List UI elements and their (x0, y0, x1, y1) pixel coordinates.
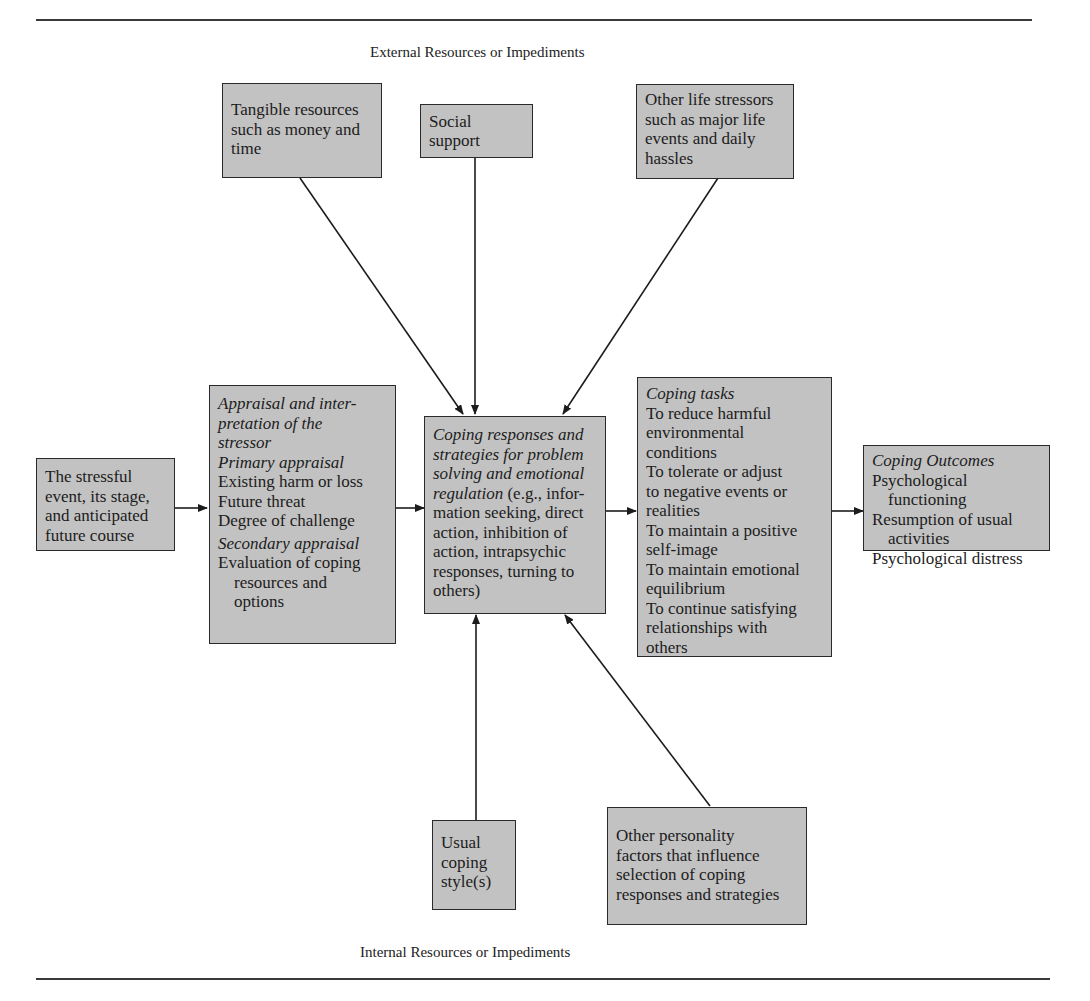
box-text: coping (441, 853, 507, 873)
box-text: such as major life (645, 110, 785, 130)
coping-task-text: others (646, 638, 823, 658)
box-text: Other life stressors (645, 90, 785, 110)
coping-task-text: To maintain emotional (646, 560, 823, 580)
coping-task-text: To continue satisfying (646, 599, 823, 619)
box-text: events and daily (645, 129, 785, 149)
box-text: style(s) (441, 872, 507, 892)
secondary-item: Evaluation of coping (218, 553, 387, 573)
social-support-box: Social support (420, 104, 533, 158)
coping-task-text: relationships with (646, 618, 823, 638)
coping-responses-heading: Coping responses and (433, 425, 597, 445)
coping-task-text: self-image (646, 540, 823, 560)
coping-responses-text: mation seeking, direct (433, 503, 597, 523)
coping-task-text: To maintain a positive (646, 521, 823, 541)
appraisal-heading: stressor (218, 433, 387, 453)
box-text: future course (45, 526, 166, 546)
secondary-item: resources and (218, 573, 387, 593)
coping-responses-heading: solving and emotional (433, 464, 597, 484)
primary-item: Degree of challenge (218, 511, 387, 531)
outcome-text: activities (872, 529, 1041, 549)
box-text: Usual (441, 833, 507, 853)
box-text: factors that influence (616, 846, 798, 866)
outcome-text: Psychological (872, 471, 1041, 491)
coping-task-text: environmental (646, 423, 823, 443)
secondary-item: options (218, 592, 387, 612)
primary-appraisal-heading: Primary appraisal (218, 453, 387, 473)
box-text: The stressful (45, 467, 166, 487)
coping-responses-text: (e.g., infor- (503, 484, 584, 503)
outcome-text: Resumption of usual (872, 510, 1041, 530)
primary-item: Existing harm or loss (218, 472, 387, 492)
coping-responses-text: responses, turning to (433, 562, 597, 582)
box-text: event, its stage, (45, 487, 166, 507)
coping-task-text: equilibrium (646, 579, 823, 599)
outcome-text: Psychological distress (872, 549, 1041, 569)
appraisal-heading: pretation of the (218, 414, 387, 434)
box-text: Social support (429, 112, 524, 151)
tangible-resources-box: Tangible resources such as money and tim… (222, 83, 382, 178)
coping-responses-heading: strategies for problem (433, 445, 597, 465)
box-text: Tangible resources (231, 100, 373, 120)
coping-task-text: To tolerate or adjust (646, 462, 823, 482)
outcome-text: functioning (872, 490, 1041, 510)
box-text: selection of coping (616, 865, 798, 885)
primary-item: Future threat (218, 492, 387, 512)
other-life-stressors-box: Other life stressors such as major life … (636, 84, 794, 179)
coping-responses-heading: regulation (433, 484, 503, 503)
stressful-event-box: The stressful event, its stage, and anti… (36, 458, 175, 551)
usual-coping-style-box: Usual coping style(s) (432, 820, 516, 910)
appraisal-heading: Appraisal and inter- (218, 394, 387, 414)
box-text: hassles (645, 149, 785, 169)
appraisal-box: Appraisal and inter- pretation of the st… (209, 385, 396, 644)
coping-responses-text: others) (433, 581, 597, 601)
coping-task-text: To reduce harmful (646, 404, 823, 424)
other-personality-factors-box: Other personality factors that influence… (607, 807, 807, 925)
coping-responses-box: Coping responses and strategies for prob… (424, 416, 606, 614)
box-text: Other personality (616, 826, 798, 846)
secondary-appraisal-heading: Secondary appraisal (218, 534, 387, 554)
box-text: such as money and (231, 120, 373, 140)
box-text: and anticipated (45, 506, 166, 526)
coping-outcomes-box: Coping Outcomes Psychological functionin… (863, 445, 1050, 551)
box-text: responses and strategies (616, 885, 798, 905)
coping-responses-text: action, intrapsychic (433, 542, 597, 562)
coping-task-text: to negative events or (646, 482, 823, 502)
coping-responses-text: action, inhibition of (433, 523, 597, 543)
coping-task-text: realities (646, 501, 823, 521)
arrow-tangible-to-coping (300, 178, 463, 414)
coping-tasks-box: Coping tasks To reduce harmful environme… (637, 377, 832, 657)
coping-task-text: conditions (646, 443, 823, 463)
coping-tasks-heading: Coping tasks (646, 384, 823, 404)
box-text: time (231, 139, 373, 159)
coping-outcomes-heading: Coping Outcomes (872, 451, 1041, 471)
